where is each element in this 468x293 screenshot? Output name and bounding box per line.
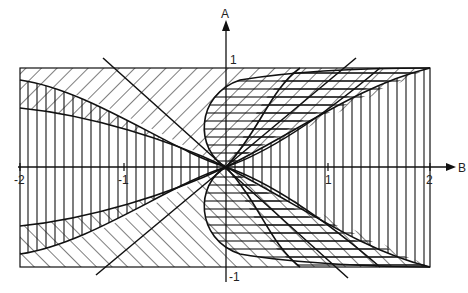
y-axis-arrow-icon [222, 20, 230, 31]
x-axis-arrow-icon [446, 163, 456, 171]
y-tick-label-neg1: -1 [229, 270, 240, 284]
x-tick-label-2: 2 [426, 173, 433, 187]
y-tick-label-1: 1 [230, 53, 237, 67]
y-axis-label: A [221, 7, 229, 21]
hatched-region-diagram: A B 1 -1 -2 -1 1 2 [0, 0, 468, 293]
x-tick-label-1: 1 [325, 173, 332, 187]
x-tick-label-neg1: -1 [118, 173, 129, 187]
x-axis-label: B [458, 161, 466, 175]
diagram-container: A B 1 -1 -2 -1 1 2 [0, 0, 468, 293]
x-tick-label-neg2: -2 [14, 173, 25, 187]
